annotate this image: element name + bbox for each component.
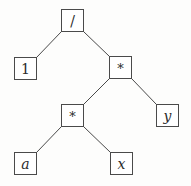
node-label: / — [70, 14, 75, 28]
tree-edge — [37, 127, 61, 152]
node-one: 1 — [14, 57, 37, 80]
tree-edge — [84, 79, 109, 104]
node-label: 1 — [21, 62, 30, 76]
node-multiply-lower: * — [61, 104, 84, 127]
tree-edge — [84, 32, 109, 56]
node-multiply-upper: * — [109, 56, 132, 79]
node-label: a — [21, 157, 29, 171]
node-divide: / — [61, 9, 84, 32]
node-y: y — [156, 104, 179, 127]
node-label: y — [164, 109, 172, 123]
node-x: x — [110, 152, 133, 175]
node-label: * — [117, 62, 124, 75]
expression-tree-diagram: / 1 * y * a x — [0, 0, 191, 186]
tree-edge — [84, 127, 110, 152]
node-label: * — [69, 110, 76, 123]
tree-edge — [37, 32, 61, 57]
node-a: a — [14, 152, 37, 175]
node-label: x — [118, 157, 126, 171]
tree-edge — [132, 79, 156, 104]
